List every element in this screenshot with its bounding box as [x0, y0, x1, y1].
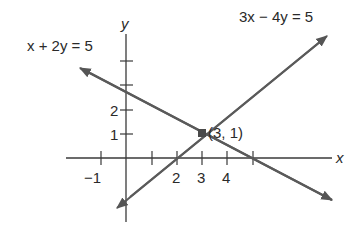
y-tick-label-1: 1	[110, 127, 118, 142]
intersection-point	[198, 129, 206, 137]
intersection-label: (3, 1)	[208, 125, 243, 140]
y-axis-label: y	[121, 16, 129, 31]
x-tick-label-2: 2	[172, 170, 180, 185]
equation-label-1: x + 2y = 5	[27, 38, 93, 53]
equation-label-2: 3x − 4y = 5	[239, 9, 313, 24]
y-tick-label-2: 2	[110, 103, 118, 118]
x-axis-label: x	[336, 150, 344, 165]
x-tick-label-neg1: −1	[84, 170, 101, 185]
x-tick-label-3: 3	[197, 170, 205, 185]
coordinate-plane	[0, 0, 364, 238]
x-tick-label-4: 4	[222, 170, 230, 185]
